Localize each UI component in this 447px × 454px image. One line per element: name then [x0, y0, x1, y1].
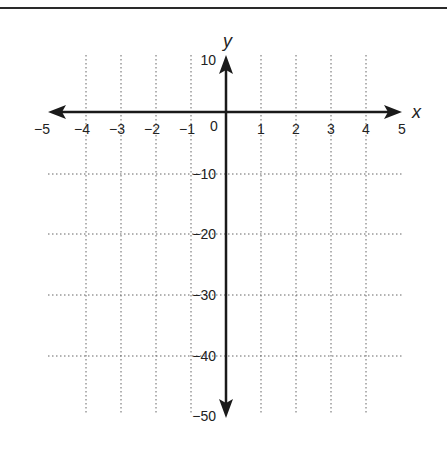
x-tick-neg4: −4 — [74, 121, 90, 137]
y-tick-10: 10 — [200, 52, 216, 68]
x-tick-3: 3 — [327, 121, 335, 137]
x-tick-1: 1 — [257, 121, 265, 137]
x-tick-neg1: −1 — [179, 121, 195, 137]
y-tick-labels: 10 −10 −20 −30 −40 −50 — [192, 52, 216, 424]
x-tick-labels: −5 −4 −3 −2 −1 0 1 2 3 4 5 — [34, 118, 406, 137]
coordinate-grid: y x −5 −4 −3 −2 −1 0 1 2 3 4 5 10 −10 −2… — [0, 0, 447, 454]
y-axis — [219, 55, 233, 418]
y-tick-neg20: −20 — [192, 226, 216, 242]
x-tick-2: 2 — [292, 121, 300, 137]
origin-label: 0 — [210, 118, 218, 134]
x-tick-5: 5 — [398, 121, 406, 137]
x-tick-neg2: −2 — [144, 121, 160, 137]
y-tick-neg30: −30 — [192, 287, 216, 303]
x-tick-neg3: −3 — [109, 121, 125, 137]
x-tick-4: 4 — [362, 121, 370, 137]
x-axis-label: x — [411, 102, 422, 122]
y-axis-label: y — [221, 31, 233, 51]
y-tick-neg50: −50 — [192, 408, 216, 424]
y-tick-neg40: −40 — [192, 348, 216, 364]
x-tick-neg5: −5 — [34, 121, 50, 137]
y-tick-neg10: −10 — [192, 166, 216, 182]
